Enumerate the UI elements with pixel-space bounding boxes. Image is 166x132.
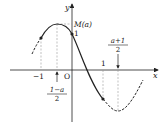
point-x-one	[101, 97, 104, 100]
guide-lines	[41, 24, 118, 111]
left-critical-denominator: 2	[55, 95, 59, 103]
origin-label: O	[64, 72, 70, 81]
max-value-label: M(a)	[73, 20, 92, 29]
left-critical-numerator: 1−a	[50, 86, 65, 94]
right-critical-numerator: a+1	[111, 37, 126, 45]
x-axis-label: x	[153, 71, 158, 80]
curve-left-dashed	[32, 38, 41, 54]
y-axis-label: y	[64, 3, 70, 12]
curve-right-dashed	[103, 80, 143, 111]
function-graph: y x O M(a) 1 −1 1 1−a 2 a+1 2	[0, 0, 166, 132]
right-critical-denominator: 2	[116, 46, 120, 54]
point-x-neg-one	[39, 36, 42, 39]
x-one-label: 1	[101, 59, 106, 68]
y-intercept-label: 1	[74, 29, 79, 38]
x-neg-one-label: −1	[33, 72, 44, 81]
